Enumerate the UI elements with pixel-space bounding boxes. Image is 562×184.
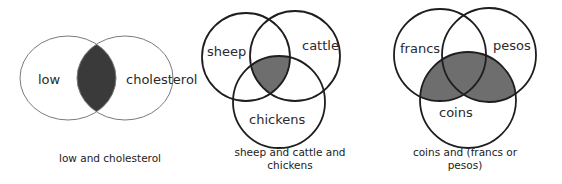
caption-sheep-cattle-chickens: sheep and cattle and chickens: [215, 146, 365, 172]
set-label-chickens: chickens: [249, 112, 305, 127]
caption-line-1: coins and (francs or: [390, 146, 540, 159]
set-label-cattle: cattle: [302, 38, 339, 53]
set-label-francs: francs: [400, 41, 440, 56]
caption-coins-francs-or-pesos: coins and (francs or pesos): [390, 146, 540, 172]
caption-line-1: sheep and cattle and: [215, 146, 365, 159]
set-label-low: low: [38, 72, 61, 87]
set-circle-cattle: [250, 11, 340, 101]
set-label-pesos: pesos: [493, 38, 531, 53]
set-label-cholesterol: cholesterol: [126, 72, 197, 87]
set-label-coins: coins: [439, 105, 473, 120]
caption-text: low and cholesterol: [59, 152, 161, 164]
caption-line-2: chickens: [215, 159, 365, 172]
venn-coins-francs-or-pesos: francs pesos coins: [394, 8, 536, 148]
caption-low-and-cholesterol: low and cholesterol: [30, 152, 190, 165]
venn-low-and-cholesterol: low cholesterol: [20, 36, 197, 120]
set-label-sheep: sheep: [207, 44, 246, 59]
venn-sheep-cattle-chickens: sheep cattle chickens: [202, 11, 340, 148]
caption-line-2: pesos): [390, 159, 540, 172]
